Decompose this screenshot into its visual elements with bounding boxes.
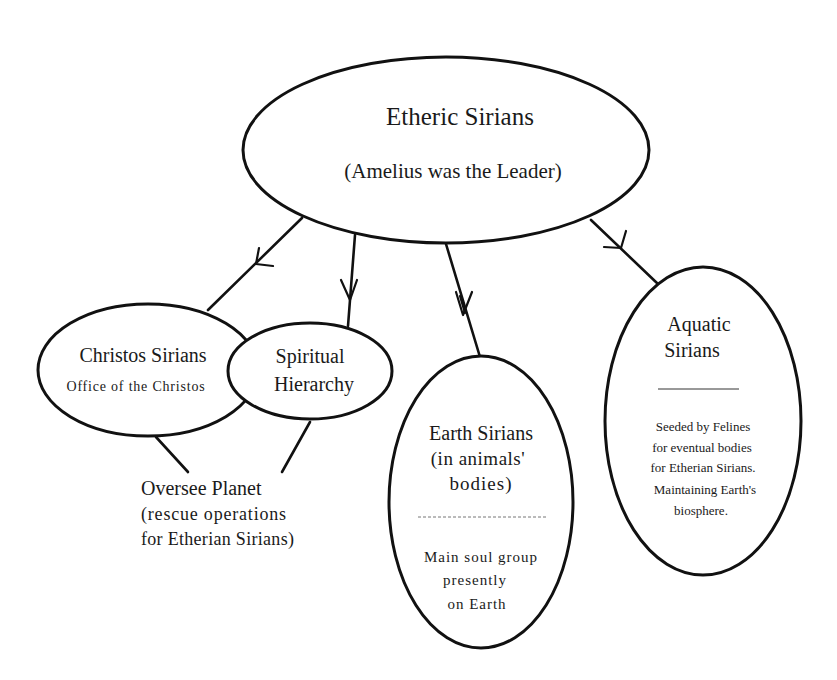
node-line-2: (rescue operations (141, 504, 287, 525)
node-desc-1: Main soul group (424, 549, 538, 565)
node-line-1: Earth Sirians (429, 422, 533, 444)
node-etheric-sirians: Etheric Sirians (Amelius was the Leader) (243, 57, 649, 243)
node-desc-5: biosphere. (674, 503, 728, 518)
node-subtitle: (Amelius was the Leader) (344, 159, 562, 183)
edge-spiritual-to-oversee (282, 422, 310, 472)
edge-etheric-to-spiritual (348, 235, 355, 326)
node-line-3: bodies) (450, 473, 513, 495)
edge-christos-to-oversee (156, 437, 188, 472)
node-desc-3: on Earth (447, 596, 506, 612)
node-line-1: Aquatic (667, 313, 730, 336)
node-spiritual-hierarchy: Spiritual Hierarchy (228, 323, 392, 419)
node-line-2: Sirians (664, 339, 720, 361)
arrowhead-icon (604, 231, 626, 248)
edge-etheric-to-aquatic (591, 220, 658, 284)
node-subtitle: Office of the Christos (66, 379, 205, 394)
node-desc-3: for Etherian Sirians. (650, 460, 755, 475)
node-line-3: for Etherian Sirians) (141, 529, 294, 550)
node-aquatic-sirians: Aquatic Sirians Seeded by Felines for ev… (605, 267, 801, 575)
node-ellipse (243, 57, 649, 243)
arrowhead-icon (341, 280, 357, 300)
node-line-1: Oversee Planet (141, 477, 262, 499)
node-ellipse (38, 304, 258, 436)
node-earth-sirians: Earth Sirians (in animals' bodies) Main … (389, 356, 573, 648)
sirian-hierarchy-diagram: Etheric Sirians (Amelius was the Leader)… (0, 0, 837, 680)
node-christos-sirians (38, 304, 258, 436)
node-line-2: (in animals' (431, 448, 525, 470)
node-ellipse (228, 323, 392, 419)
arrowhead-icon (256, 248, 273, 266)
node-desc-2: for eventual bodies (652, 440, 752, 455)
node-title: Christos Sirians (79, 344, 206, 366)
edge-etheric-to-earth (446, 244, 480, 357)
node-desc-4: Maintaining Earth's (654, 482, 756, 497)
node-line-2: Hierarchy (274, 373, 354, 396)
node-desc-2: presently (443, 572, 507, 588)
node-line-1: Spiritual (276, 345, 345, 368)
node-desc-1: Seeded by Felines (656, 419, 751, 434)
node-oversee-planet: Oversee Planet (rescue operations for Et… (141, 477, 294, 550)
node-title: Etheric Sirians (386, 103, 534, 130)
